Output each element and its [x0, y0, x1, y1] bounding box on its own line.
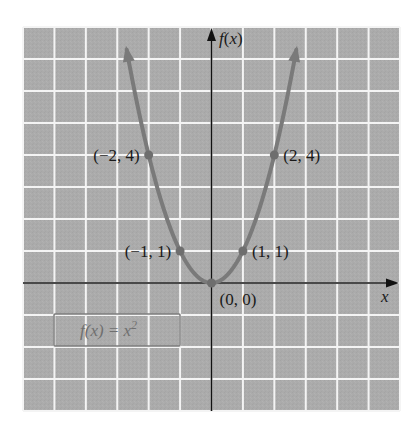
data-point [270, 151, 279, 160]
function-label-exponent: 2 [131, 318, 137, 332]
data-point [207, 279, 216, 288]
data-point [176, 247, 185, 256]
point-label: (0, 0) [220, 290, 257, 309]
point-label: (2, 4) [283, 146, 320, 165]
x-axis-label: x [380, 287, 389, 306]
parabola-chart: (−2, 4)(−1, 1)(0, 0)(1, 1)(2, 4) x f(x) … [0, 0, 418, 432]
point-label: (−2, 4) [93, 146, 139, 165]
point-label: (1, 1) [252, 242, 289, 261]
y-axis-label: f(x) [219, 29, 243, 48]
data-point [144, 151, 153, 160]
point-label: (−1, 1) [125, 242, 171, 261]
data-point [238, 247, 247, 256]
function-label-text: f(x) = x [80, 321, 132, 340]
svg-text:f(x) = x2: f(x) = x2 [80, 318, 137, 340]
